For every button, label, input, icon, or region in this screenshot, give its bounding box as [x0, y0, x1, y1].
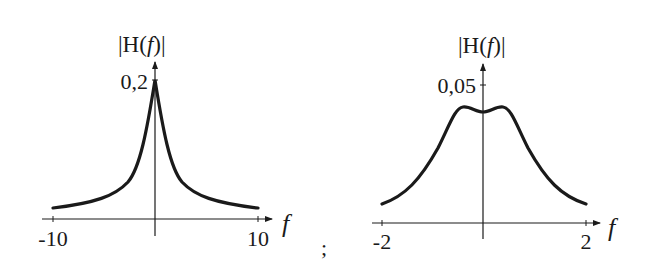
chart-right: |H(f)| 0,05 -2 2 f: [372, 33, 619, 254]
figure-canvas: |H(f)| 0,2 -10 10 f ; |H(f)| 0,05 -2 2 f: [0, 0, 653, 276]
y-axis-label: |H(f)|: [458, 33, 506, 58]
curve-double-hump: [382, 107, 586, 204]
x-tick-label-max: 2: [581, 229, 592, 254]
x-tick-label-min: -10: [38, 226, 67, 251]
separator: ;: [321, 235, 327, 260]
y-tick-label: 0,2: [121, 69, 149, 94]
y-axis-label: |H(f)|: [118, 32, 166, 57]
y-tick-label: 0,05: [438, 73, 477, 98]
x-axis-label: f: [608, 213, 619, 242]
x-axis-label: f: [282, 209, 293, 238]
x-tick-label-max: 10: [247, 226, 269, 251]
x-tick-label-min: -2: [373, 229, 391, 254]
chart-left: |H(f)| 0,2 -10 10 f: [38, 32, 293, 251]
